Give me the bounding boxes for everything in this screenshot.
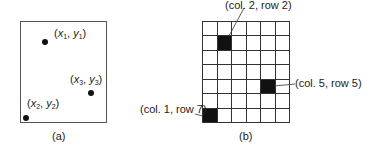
- caption-b: (b): [239, 130, 252, 142]
- cell-label-col2-row2: (col. 2, row 2): [225, 0, 292, 11]
- cell-label-col5-row5: (col. 5, row 5): [295, 77, 362, 89]
- leader-line-col2-row2: [229, 8, 244, 36]
- cell-label-col1-row7: (col. 1, row 7): [140, 103, 207, 115]
- leader-line-col5-row5: [274, 84, 295, 86]
